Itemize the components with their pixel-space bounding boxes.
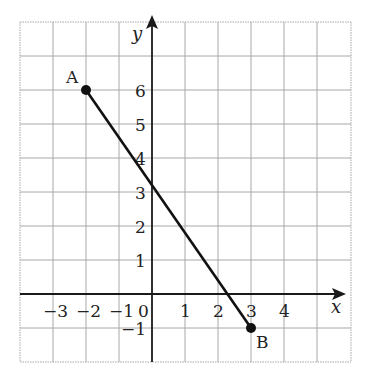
svg-text:2: 2 [135,217,146,237]
svg-text:4: 4 [279,301,290,321]
svg-text:0: 0 [138,301,149,321]
svg-text:2: 2 [213,301,224,321]
point-b [246,323,256,333]
coordinate-plane: x y −3 −2 −1 0 1 2 3 4 −1 1 2 3 4 5 6 A … [0,0,366,388]
svg-text:−1: −1 [121,319,146,339]
svg-text:4: 4 [135,149,146,169]
svg-text:6: 6 [135,81,146,101]
svg-text:−1: −1 [109,301,134,321]
y-axis-label: y [131,23,143,44]
svg-text:−3: −3 [43,301,68,321]
svg-text:5: 5 [135,115,146,135]
svg-text:1: 1 [135,251,146,271]
svg-text:3: 3 [246,301,257,321]
svg-text:3: 3 [135,183,146,203]
segment-ab [86,90,251,328]
x-tick-labels: −3 −2 −1 0 1 2 3 4 [43,301,290,321]
x-axis-label: x [331,296,341,317]
point-a [81,85,91,95]
point-b-label: B [256,332,269,352]
svg-text:1: 1 [180,301,191,321]
svg-text:−2: −2 [76,301,101,321]
point-a-label: A [65,67,79,87]
